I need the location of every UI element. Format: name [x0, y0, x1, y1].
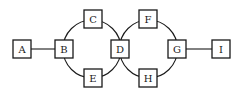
node-a: A: [13, 40, 31, 58]
node-label: G: [173, 44, 181, 55]
node-label: F: [145, 14, 152, 25]
node-c: C: [84, 10, 102, 28]
node-b: B: [55, 40, 73, 58]
node-e: E: [84, 69, 102, 87]
node-h: H: [139, 69, 157, 87]
node-f: F: [139, 10, 157, 28]
node-label: D: [116, 44, 124, 55]
node-d: D: [111, 40, 129, 58]
node-g: G: [168, 40, 186, 58]
node-label: B: [60, 44, 67, 55]
node-i: I: [212, 40, 230, 58]
graph-diagram: A B C D E F G H I: [0, 0, 238, 96]
node-label: C: [89, 14, 97, 25]
node-label: H: [144, 73, 153, 84]
node-label: E: [89, 73, 96, 84]
node-label: I: [219, 44, 223, 55]
node-label: A: [17, 44, 26, 55]
